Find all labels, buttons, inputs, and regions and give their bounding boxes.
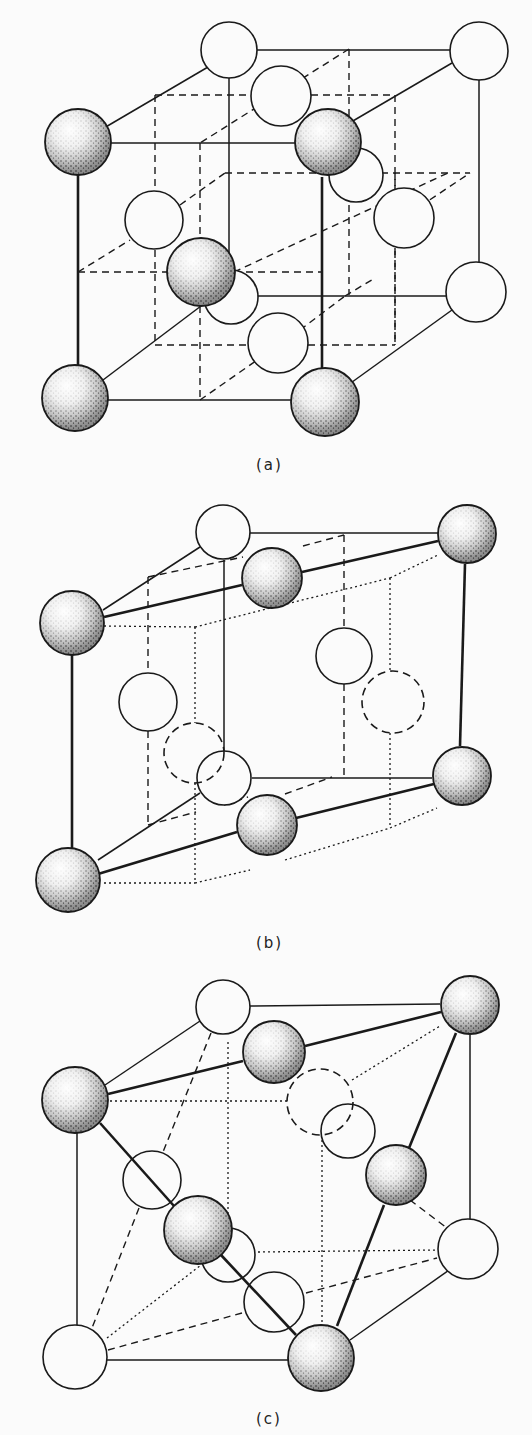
dotted-bond-line bbox=[390, 555, 438, 578]
dotted-bond-line bbox=[352, 1026, 440, 1080]
shaded-atom-icon bbox=[242, 548, 302, 608]
open-atom-icon bbox=[125, 191, 183, 249]
open-atom-icon bbox=[362, 671, 424, 733]
solid-bond-line bbox=[348, 310, 452, 385]
open-atom-icon bbox=[43, 1325, 107, 1389]
thick-bond-line bbox=[302, 541, 438, 572]
crystal-structure-figure: (a) (b) (c) bbox=[0, 0, 532, 1435]
solid-bond-line bbox=[104, 67, 208, 128]
shaded-atom-icon bbox=[291, 368, 359, 436]
shaded-atom-icon bbox=[42, 1067, 108, 1133]
dashed-bond-line bbox=[148, 557, 243, 577]
thick-bond-line bbox=[108, 1061, 243, 1094]
dashed-bond-line bbox=[180, 173, 225, 205]
dotted-bond-line bbox=[258, 1250, 438, 1252]
shaded-atom-icon bbox=[433, 747, 491, 805]
shaded-atom-icon bbox=[164, 1196, 232, 1264]
dotted-bond-line bbox=[195, 870, 250, 883]
open-atom-icon bbox=[316, 628, 372, 684]
shaded-atom-icon bbox=[288, 1325, 354, 1391]
open-atom-icon bbox=[196, 505, 250, 559]
shaded-atom-icon bbox=[295, 109, 361, 175]
dashed-bond-line bbox=[78, 240, 130, 272]
thick-bond-line bbox=[104, 585, 242, 617]
shaded-atom-icon bbox=[237, 795, 297, 855]
solid-bond-line bbox=[103, 547, 200, 610]
dotted-bond-line bbox=[285, 828, 390, 860]
thick-bond-line bbox=[409, 1033, 456, 1148]
solid-bond-line bbox=[350, 1268, 452, 1340]
thick-bond-line bbox=[296, 784, 434, 818]
open-atom-icon bbox=[119, 673, 177, 731]
shaded-atom-icon bbox=[36, 848, 100, 912]
shaded-atom-icon bbox=[441, 976, 499, 1034]
panel-label-c: (c) bbox=[256, 1410, 282, 1428]
dashed-bond-line bbox=[303, 535, 344, 546]
dashed-bond-line bbox=[92, 1208, 139, 1328]
dotted-bond-line bbox=[107, 1265, 201, 1338]
dashed-bond-line bbox=[163, 1033, 211, 1152]
open-atom-icon bbox=[446, 262, 506, 322]
thick-bond-line bbox=[337, 1205, 384, 1326]
panel-label-a: (a) bbox=[256, 456, 283, 474]
open-atom-icon bbox=[438, 1219, 498, 1279]
dotted-bond-line bbox=[390, 808, 437, 828]
panel-a-cubic-structure bbox=[42, 22, 508, 436]
dashed-bond-line bbox=[285, 777, 332, 794]
shaded-atom-icon bbox=[366, 1145, 426, 1205]
shaded-atom-icon bbox=[40, 591, 104, 655]
open-atom-icon bbox=[251, 66, 311, 126]
dashed-bond-line bbox=[108, 1313, 242, 1350]
open-atom-icon bbox=[450, 22, 508, 80]
thick-bond-line bbox=[460, 564, 465, 746]
solid-bond-line bbox=[103, 306, 201, 380]
shaded-atom-icon bbox=[243, 1021, 305, 1083]
open-atom-icon bbox=[321, 1104, 375, 1158]
open-atom-icon bbox=[244, 1272, 304, 1332]
shaded-atom-icon bbox=[42, 365, 108, 431]
panel-c-rhombohedral-structure bbox=[42, 976, 499, 1391]
solid-bond-line bbox=[249, 1004, 440, 1006]
thick-bond-line bbox=[305, 1012, 441, 1046]
panel-b-hexagonal-prism-structure bbox=[36, 505, 496, 912]
shaded-atom-icon bbox=[45, 109, 111, 175]
dashed-bond-line bbox=[410, 1200, 447, 1228]
open-atom-icon bbox=[374, 188, 434, 248]
open-atom-icon bbox=[248, 313, 308, 373]
solid-bond-line bbox=[98, 793, 200, 860]
open-atom-icon bbox=[201, 22, 257, 78]
open-atom-icon bbox=[196, 980, 250, 1034]
shaded-atom-icon bbox=[167, 238, 235, 306]
dotted-bond-line bbox=[104, 626, 195, 627]
thick-bond-line bbox=[98, 832, 237, 874]
panel-label-b: (b) bbox=[256, 934, 283, 952]
shaded-atom-icon bbox=[438, 505, 496, 563]
dashed-bond-line bbox=[306, 1258, 437, 1293]
solid-bond-line bbox=[346, 63, 452, 125]
